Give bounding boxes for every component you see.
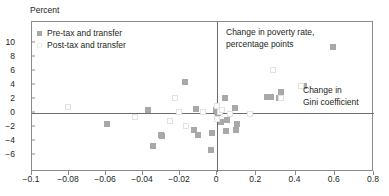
data-point	[104, 121, 110, 127]
data-point	[247, 111, 253, 117]
data-point	[200, 109, 206, 115]
data-point	[167, 118, 173, 124]
y-axis-tick-mark	[31, 70, 35, 71]
y-axis-tick-label: 2	[0, 93, 15, 103]
annotation-poverty-rate: Change in poverty rate, percentage point…	[226, 27, 314, 50]
data-point	[150, 143, 156, 149]
annotation-gini: Change in Gini coefficient	[303, 85, 359, 108]
y-axis-title: Percent	[30, 5, 59, 15]
y-axis-tick-label: −4	[0, 135, 15, 145]
data-point	[223, 128, 229, 134]
legend-swatch-pre-tax-icon	[37, 31, 42, 36]
data-point	[208, 147, 214, 153]
data-point	[145, 107, 151, 113]
y-axis-tick-mark	[31, 154, 35, 155]
data-point	[234, 121, 240, 127]
x-axis-tick-mark	[334, 171, 335, 175]
y-axis-tick-label: 0	[0, 107, 15, 117]
y-axis-tick-label: 4	[0, 79, 15, 89]
data-point	[268, 94, 274, 100]
annotation-gini-line2: Gini coefficient	[303, 97, 359, 109]
data-point	[132, 114, 138, 120]
y-axis-tick-mark	[31, 126, 35, 127]
annotation-poverty-rate-line1: Change in poverty rate,	[226, 27, 314, 39]
x-axis-tick-label: −0.06	[94, 174, 116, 184]
data-point	[183, 123, 189, 129]
data-point	[233, 127, 239, 133]
y-axis-tick-label: −6	[0, 149, 15, 159]
x-axis-tick-label: −0.1	[23, 174, 40, 184]
x-axis-tick-mark	[68, 171, 69, 175]
legend-item-pre-tax: Pre-tax and transfer	[37, 28, 126, 39]
legend-label-post-tax: Post-tax and transfer	[47, 40, 126, 51]
data-point	[176, 109, 182, 115]
data-point	[65, 104, 71, 110]
data-point	[209, 130, 215, 136]
x-axis-tick-label: −0.04	[131, 174, 153, 184]
data-point	[182, 79, 188, 85]
chart-legend: Pre-tax and transfer Post-tax and transf…	[37, 28, 126, 52]
x-axis-tick-mark	[179, 171, 180, 175]
x-axis-tick-mark	[216, 171, 217, 175]
x-axis-tick-mark	[295, 171, 296, 175]
x-axis-tick-label: 0.6	[328, 174, 340, 184]
data-point	[195, 132, 201, 138]
y-axis-tick-label: −2	[0, 121, 15, 131]
x-axis-tick-mark	[105, 171, 106, 175]
annotation-gini-line1: Change in	[303, 85, 359, 97]
data-point	[214, 116, 220, 122]
data-point	[193, 106, 199, 112]
legend-label-pre-tax: Pre-tax and transfer	[47, 28, 122, 39]
y-axis-tick-label: 10	[0, 37, 15, 47]
legend-item-post-tax: Post-tax and transfer	[37, 40, 126, 51]
data-point	[159, 133, 165, 139]
annotation-poverty-rate-line2: percentage points	[226, 39, 314, 51]
data-point	[330, 44, 336, 50]
data-point	[278, 95, 284, 101]
x-axis-tick-label: 0.2	[249, 174, 261, 184]
legend-swatch-post-tax-icon	[37, 43, 42, 48]
data-point	[224, 117, 230, 123]
x-axis-tick-label: 0.8	[367, 174, 379, 184]
x-axis-tick-mark	[373, 171, 374, 175]
data-point	[270, 67, 276, 73]
zero-vertical-axis	[217, 22, 218, 172]
y-axis-tick-mark	[31, 98, 35, 99]
y-axis-tick-mark	[31, 56, 35, 57]
x-axis-tick-label: 0.4	[289, 174, 301, 184]
data-point	[219, 107, 225, 113]
x-axis-tick-label: −0.02	[168, 174, 190, 184]
y-axis-tick-label: 8	[0, 51, 15, 61]
x-axis-tick-mark	[31, 171, 32, 175]
chart-container: Percent 1086420−2−4−6−0.1−0.08−0.06−0.04…	[0, 0, 389, 196]
data-point	[172, 95, 178, 101]
x-axis-tick-mark	[142, 171, 143, 175]
y-axis-tick-mark	[31, 84, 35, 85]
x-axis-tick-label: 0	[214, 174, 219, 184]
y-axis-tick-mark	[31, 112, 35, 113]
y-axis-tick-mark	[31, 42, 35, 43]
data-point	[222, 95, 228, 101]
x-axis-tick-label: −0.08	[57, 174, 79, 184]
y-axis-tick-label: 6	[0, 65, 15, 75]
data-point	[227, 111, 233, 117]
x-axis-tick-mark	[255, 171, 256, 175]
y-axis-tick-mark	[31, 140, 35, 141]
